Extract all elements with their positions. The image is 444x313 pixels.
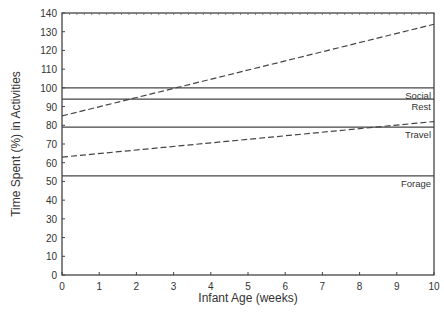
y-tick-label: 70 <box>46 139 58 150</box>
y-tick-label: 20 <box>46 233 58 244</box>
plot-frame <box>62 13 434 275</box>
y-axis-label: Time Spent (%) in Activities <box>9 71 23 217</box>
x-tick-label: 2 <box>134 281 140 292</box>
series-line-upper-dashed-trend <box>62 24 434 116</box>
y-tick-label: 50 <box>46 176 58 187</box>
series-label-social: Social <box>405 90 431 101</box>
series-label-travel: Travel <box>405 129 431 140</box>
y-tick-label: 60 <box>46 158 58 169</box>
y-tick-label: 90 <box>46 102 58 113</box>
plot-area: 0102030405060708090100110120130140012345… <box>40 8 440 292</box>
x-axis-label: Infant Age (weeks) <box>198 291 297 305</box>
y-tick-label: 120 <box>40 45 57 56</box>
y-tick-label: 30 <box>46 214 58 225</box>
x-tick-label: 0 <box>59 281 65 292</box>
y-tick-label: 40 <box>46 195 58 206</box>
series-label-rest: Rest <box>411 101 431 112</box>
x-tick-label: 3 <box>171 281 177 292</box>
y-tick-label: 80 <box>46 120 58 131</box>
y-tick-label: 130 <box>40 27 57 38</box>
x-tick-label: 10 <box>428 281 440 292</box>
x-tick-label: 7 <box>320 281 326 292</box>
x-tick-label: 8 <box>357 281 363 292</box>
y-tick-label: 10 <box>46 251 58 262</box>
y-tick-label: 110 <box>41 64 57 75</box>
y-tick-label: 0 <box>51 270 57 281</box>
y-tick-label: 140 <box>40 8 57 19</box>
y-tick-label: 100 <box>40 83 57 94</box>
activity-time-chart: 0102030405060708090100110120130140012345… <box>0 0 444 313</box>
series-label-forage: Forage <box>401 178 431 189</box>
x-tick-label: 9 <box>394 281 400 292</box>
x-tick-label: 1 <box>96 281 102 292</box>
